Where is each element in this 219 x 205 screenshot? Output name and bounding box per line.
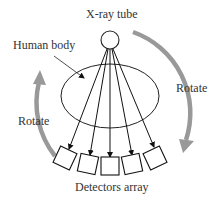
beams bbox=[69, 49, 154, 157]
detector bbox=[77, 153, 98, 174]
detectors-label: Detectors array bbox=[75, 180, 149, 195]
xray-tube-icon bbox=[101, 31, 119, 49]
detector bbox=[121, 153, 142, 174]
detector bbox=[143, 146, 167, 170]
human-body-pointer bbox=[54, 56, 84, 78]
human-body-label: Human body bbox=[13, 38, 75, 53]
rotate-arc-left bbox=[33, 70, 55, 156]
ct-diagram bbox=[0, 0, 219, 205]
xray-tube-label: X-ray tube bbox=[86, 7, 138, 22]
detector bbox=[101, 157, 119, 175]
detector bbox=[53, 146, 77, 170]
arrowhead-icon bbox=[33, 70, 46, 85]
arrowhead-icon bbox=[179, 139, 194, 153]
rotate-right-label: Rotate bbox=[176, 81, 207, 96]
rotate-left-label: Rotate bbox=[18, 114, 49, 129]
